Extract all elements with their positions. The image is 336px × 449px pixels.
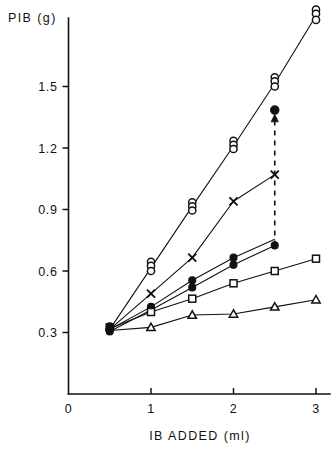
upward-arrow-annotation-head — [271, 114, 278, 122]
cross-series-marker-0 — [147, 290, 155, 298]
y-tick-label-2: 0.9 — [38, 203, 57, 217]
filled-circle-series-upper-marker-1 — [189, 277, 196, 284]
open-square-series-marker-4 — [313, 255, 320, 262]
convergence-cluster — [106, 323, 113, 335]
x-tick-label-2: 2 — [230, 402, 238, 416]
cluster-marker-3 — [106, 323, 113, 330]
x-tick-label-1: 1 — [147, 402, 155, 416]
open-triangle-series-marker-3 — [271, 303, 279, 310]
series-open-circle-series — [106, 6, 319, 333]
filled-circle-series-lower-marker-2 — [230, 261, 237, 268]
x-tick-label-3: 3 — [312, 402, 320, 416]
y-tick-label-4: 1.5 — [38, 80, 57, 94]
open-circle-series-marker-9 — [230, 145, 237, 152]
series-cross-series — [110, 171, 279, 330]
open-circle-series-line — [110, 16, 316, 330]
open-circle-series-marker-12 — [271, 83, 278, 90]
cross-series-marker-2 — [230, 197, 238, 205]
y-tick-label-1: 0.6 — [38, 265, 57, 279]
filled-circle-series-upper-marker-2 — [230, 254, 237, 261]
open-circle-series-marker-6 — [189, 207, 196, 214]
open-square-series-marker-1 — [189, 295, 196, 302]
open-square-series-marker-0 — [148, 309, 155, 316]
open-circle-series-marker-3 — [147, 267, 154, 274]
series-open-square-series — [110, 255, 320, 328]
open-square-series-marker-2 — [230, 280, 237, 287]
open-circle-series-marker-15 — [312, 16, 319, 23]
chart-canvas: 0.30.60.91.21.50123PIB (g)IB ADDED (ml) — [0, 0, 336, 449]
open-triangle-series-marker-0 — [147, 323, 155, 330]
data-series-group — [106, 6, 320, 335]
x-tick-label-0: 0 — [65, 402, 73, 416]
cross-series-line — [110, 175, 275, 330]
upward-arrow-annotation-endpoint-marker — [271, 106, 279, 114]
y-tick-label-0: 0.3 — [38, 326, 57, 340]
y-tick-label-3: 1.2 — [38, 142, 57, 156]
open-triangle-series-marker-2 — [229, 310, 237, 317]
open-square-series-marker-3 — [271, 268, 278, 275]
x-axis-title: IB ADDED (ml) — [149, 429, 251, 443]
series-open-triangle-series — [110, 296, 320, 331]
open-triangle-series-marker-1 — [188, 311, 196, 318]
chart-figure: 0.30.60.91.21.50123PIB (g)IB ADDED (ml) — [0, 0, 336, 449]
filled-circle-series-lower-marker-1 — [189, 284, 196, 291]
open-triangle-series-marker-4 — [312, 296, 320, 303]
cross-series-marker-1 — [188, 254, 196, 262]
y-axis-title: PIB (g) — [8, 11, 57, 25]
